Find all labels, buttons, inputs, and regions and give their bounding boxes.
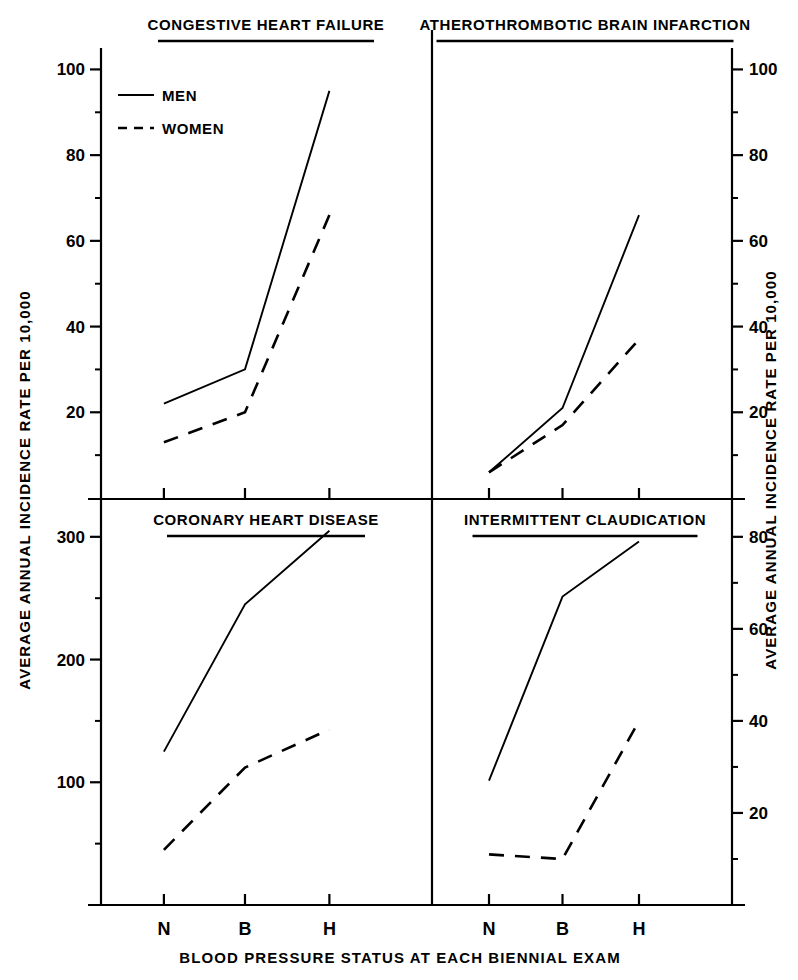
x-axis-category-label: N [157,919,170,939]
x-axis-label: BLOOD PRESSURE STATUS AT EACH BIENNIAL E… [179,949,621,966]
y-axis-tick-label: 60 [66,232,85,251]
figure-root: CONGESTIVE HEART FAILURE20406080100 ATHE… [0,0,798,980]
axes-frame [88,30,745,905]
panel-atherothrombotic-brain-infarction: ATHEROTHROMBOTIC BRAIN INFARCTION2040608… [419,16,777,499]
series-line-men [164,91,330,404]
panel-title: INTERMITTENT CLAUDICATION [464,511,706,528]
y-axis-tick-label: 60 [749,232,768,251]
legend-label-men: MEN [162,87,197,104]
y-axis-tick-label: 80 [66,146,85,165]
y-axis-tick-label: 40 [66,318,85,337]
y-axis-tick-label: 300 [57,528,85,547]
y-axis-tick-label: 100 [57,60,85,79]
y-axis-label-left: AVERAGE ANNUAL INCIDENCE RATE PER 10,000 [16,290,33,689]
x-axis-category-label: H [323,919,336,939]
panel-title: ATHEROTHROMBOTIC BRAIN INFARCTION [419,16,750,33]
x-axis-category-label: B [238,919,251,939]
series-line-women [489,721,639,859]
panel-intermittent-claudication: INTERMITTENT CLAUDICATION20406080NBH [464,511,768,939]
panel-title: CONGESTIVE HEART FAILURE [148,16,385,33]
y-axis-tick-label: 80 [749,146,768,165]
x-axis-category-label: B [556,919,569,939]
series-line-men [489,541,639,780]
series-line-women [164,730,330,850]
panel-coronary-heart-disease: CORONARY HEART DISEASE100200300NBH [57,511,379,939]
y-axis-tick-label: 100 [57,773,85,792]
panel-congestive-heart-failure: CONGESTIVE HEART FAILURE20406080100 [57,16,385,499]
x-axis-category-label: N [483,919,496,939]
legend-label-women: WOMEN [162,120,224,137]
y-axis-tick-label: 40 [749,712,768,731]
series-line-women [164,215,330,442]
y-axis-label-right: AVERAGE ANNUAL INCIDENCE RATE PER 10,000 [762,270,779,669]
y-axis-tick-label: 20 [749,804,768,823]
legend: MENWOMEN [118,87,224,137]
series-line-men [164,531,330,752]
y-axis-tick-label: 20 [66,403,85,422]
y-axis-tick-label: 200 [57,651,85,670]
y-axis-tick-label: 100 [749,60,777,79]
series-line-men [489,215,639,472]
panel-title: CORONARY HEART DISEASE [153,511,379,528]
multi-panel-line-chart: CONGESTIVE HEART FAILURE20406080100 ATHE… [0,0,798,980]
x-axis-category-label: H [633,919,646,939]
